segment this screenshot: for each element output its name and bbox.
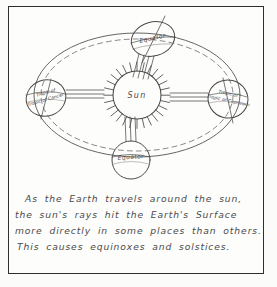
earth-left-group: Tropic of Tropic of Cancer [21, 74, 104, 122]
earth-top-tropic-line [133, 44, 173, 49]
sun-group: Sun [104, 62, 170, 128]
earth-bottom-tropic-line [113, 162, 149, 165]
earth-top-group: Equator [127, 16, 179, 79]
earth-bottom-sun-rays [125, 117, 136, 141]
caption-line-3: more directly in some places than others… [15, 225, 261, 236]
caption-line-4: This causes equinoxes and solstices. [17, 241, 263, 252]
caption-line-2: the sun's rays hit the Earth's Surface [15, 209, 261, 220]
orbit-diagram: Sun Equator [9, 7, 265, 183]
caption-line-1: As the Earth travels around the sun, [25, 193, 271, 204]
orbit-diagram-svg: Sun Equator [9, 7, 265, 183]
earth-left-sun-rays [66, 90, 104, 98]
earth-right-sun-rays [170, 93, 208, 101]
sun-label: Sun [128, 91, 147, 100]
diagram-frame: Sun Equator [8, 6, 264, 274]
paper-sheet: Sun Equator [0, 0, 277, 287]
caption-block: As the Earth travels around the sun, the… [9, 183, 265, 275]
earth-bottom-label: Equator [117, 152, 144, 162]
